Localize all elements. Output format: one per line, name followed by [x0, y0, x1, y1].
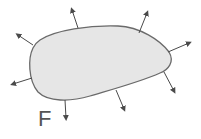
blob-shape [30, 26, 172, 100]
arrow-down-left [65, 100, 66, 118]
arrow-right [168, 43, 189, 52]
force-diagram [0, 0, 201, 139]
arrow-down-middle [116, 90, 124, 109]
arrow-up-left [72, 10, 78, 28]
arrow-left-upper [18, 35, 33, 45]
figure-label: F [38, 108, 51, 130]
arrow-up-right [139, 13, 147, 33]
arrow-down-right [164, 72, 174, 91]
arrow-left-lower [13, 78, 32, 84]
